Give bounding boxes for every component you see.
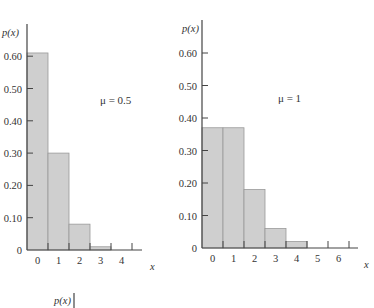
y-tick-label: 0.30 bbox=[179, 146, 197, 157]
y-tick-label: 0.10 bbox=[4, 213, 22, 224]
bar-x-2 bbox=[69, 224, 90, 250]
poisson-charts: 00.100.200.300.400.500.6001234p(x)xμ = 0… bbox=[0, 0, 374, 308]
y-tick-label: 0.10 bbox=[179, 211, 197, 222]
chart-mu-1: 00.100.200.300.400.500.600123456p(x)xμ =… bbox=[179, 20, 369, 270]
bar-x-0 bbox=[27, 53, 48, 250]
x-tick-label: 4 bbox=[119, 255, 125, 266]
x-tick-label: 1 bbox=[56, 255, 61, 266]
bar-x-4 bbox=[286, 242, 307, 249]
x-tick-label: 3 bbox=[98, 255, 103, 266]
x-tick-label: 2 bbox=[252, 253, 257, 264]
y-tick-label: 0 bbox=[192, 243, 197, 254]
bar-x-2 bbox=[244, 190, 265, 249]
x-tick-label: 5 bbox=[315, 253, 320, 264]
y-tick-label: 0.40 bbox=[4, 116, 22, 127]
y-tick-label: 0.60 bbox=[179, 48, 197, 59]
y-tick-label: 0.50 bbox=[179, 81, 197, 92]
y-axis-label: p(x) bbox=[181, 23, 199, 35]
y-axis-label: p(x) bbox=[1, 27, 19, 39]
bar-x-1 bbox=[223, 128, 244, 248]
y-tick-label: 0.20 bbox=[179, 178, 197, 189]
x-tick-label: 4 bbox=[294, 253, 300, 264]
bar-x-3 bbox=[265, 229, 286, 249]
y-tick-label: 0.60 bbox=[4, 51, 22, 62]
mu-annotation: μ = 0.5 bbox=[100, 94, 132, 106]
y-tick-label: 0.20 bbox=[4, 180, 22, 191]
x-tick-label: 1 bbox=[231, 253, 236, 264]
bar-x-0 bbox=[202, 128, 223, 248]
y-tick-label: 0.40 bbox=[179, 113, 197, 124]
x-tick-label: 2 bbox=[77, 255, 82, 266]
x-tick-label: 0 bbox=[35, 255, 40, 266]
x-tick-label: 3 bbox=[273, 253, 278, 264]
y-tick-label: 0 bbox=[17, 245, 22, 256]
mu-annotation: μ = 1 bbox=[278, 92, 301, 104]
x-tick-label: 0 bbox=[210, 253, 215, 264]
y-tick-label: 0.30 bbox=[4, 148, 22, 159]
x-axis-label: x bbox=[363, 259, 369, 270]
partial-chart-ylabel: p(x) bbox=[53, 295, 71, 307]
bar-x-1 bbox=[48, 153, 69, 250]
x-axis-label: x bbox=[149, 261, 155, 272]
partial-chart-bottom: p(x) bbox=[53, 293, 74, 308]
chart-mu-0-5: 00.100.200.300.400.500.6001234p(x)xμ = 0… bbox=[1, 24, 155, 272]
y-tick-label: 0.50 bbox=[4, 84, 22, 95]
x-tick-label: 6 bbox=[336, 253, 341, 264]
